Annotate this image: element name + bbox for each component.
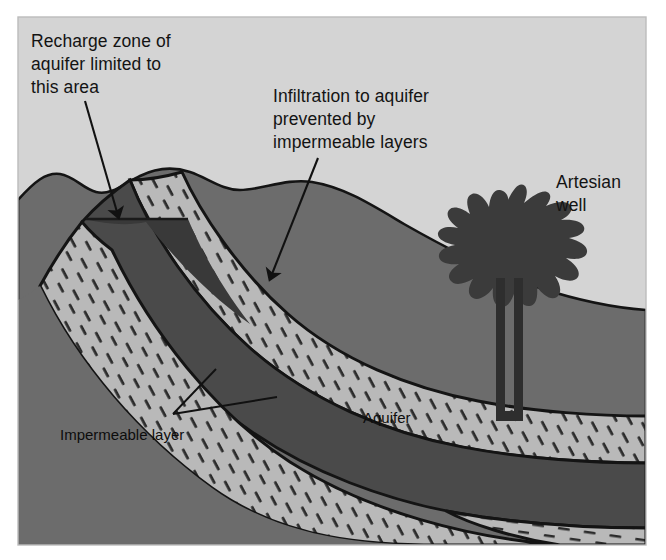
- figure-root: Aquifer Impermeable layer Recharge zone …: [0, 0, 666, 560]
- impermeable-layer-label: Impermeable layer: [60, 426, 184, 443]
- artesian-well-label-line-1: Artesian: [556, 172, 621, 192]
- well-casing-foot: [496, 411, 523, 421]
- recharge-callout-line-3: this area: [31, 77, 99, 97]
- aquifer-label: Aquifer: [363, 409, 411, 426]
- infiltration-callout-line-1: Infiltration to aquifer: [273, 86, 429, 106]
- aquifer-cross-section-diagram: Aquifer Impermeable layer Recharge zone …: [0, 0, 666, 560]
- infiltration-callout-line-2: prevented by: [273, 109, 376, 129]
- well-casing-left: [496, 278, 505, 421]
- recharge-callout-line-2: aquifer limited to: [31, 54, 161, 74]
- well-casing-right: [514, 278, 523, 421]
- infiltration-callout-line-3: impermeable layers: [273, 132, 428, 152]
- recharge-callout-line-1: Recharge zone of: [31, 31, 171, 51]
- artesian-well-label-line-2: well: [555, 195, 587, 215]
